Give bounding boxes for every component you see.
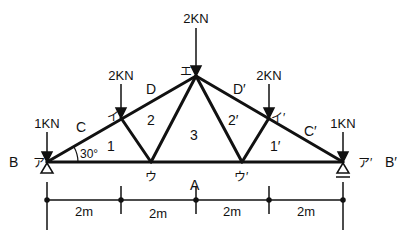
region-label-d-prime: D′ bbox=[233, 81, 246, 97]
load-label-upper-left: 2KN bbox=[108, 68, 133, 83]
node-label-upper-right: イ′ bbox=[271, 111, 286, 125]
node-label-apex: エ bbox=[180, 65, 192, 79]
region-label-c-prime: C′ bbox=[304, 123, 317, 139]
load-label-right-support: 1KN bbox=[330, 116, 355, 131]
load-label-upper-right: 2KN bbox=[256, 68, 281, 83]
dimension-label-2: 2m bbox=[149, 206, 167, 221]
node-label-lower-left: ウ bbox=[145, 170, 157, 184]
angle-label: 30° bbox=[80, 147, 98, 161]
node-label-upper-left: イ bbox=[107, 110, 119, 124]
region-label-b-prime: B′ bbox=[385, 154, 397, 170]
region-label-a: A bbox=[190, 177, 200, 193]
roller-support-icon bbox=[337, 163, 349, 173]
web-right-outer bbox=[242, 118, 269, 162]
region-label-2: 2 bbox=[147, 112, 155, 128]
truss-diagram: 1KN 2KN 2KN 2KN 1KN ア イ エ イ′ ウ ウ′ ア′ B B… bbox=[0, 0, 418, 244]
node-label-left-support: ア bbox=[33, 156, 45, 170]
load-label-apex: 2KN bbox=[183, 11, 208, 26]
supports bbox=[41, 163, 350, 177]
dimension-label-1: 2m bbox=[75, 204, 93, 219]
region-label-3: 3 bbox=[190, 127, 198, 143]
load-label-left-support: 1KN bbox=[34, 116, 59, 131]
region-label-2-prime: 2′ bbox=[228, 112, 239, 128]
dimension-label-3: 2m bbox=[223, 204, 241, 219]
region-label-c: C bbox=[76, 119, 86, 135]
region-label-b: B bbox=[9, 154, 18, 170]
region-label-1: 1 bbox=[107, 138, 115, 154]
node-label-right-support: ア′ bbox=[358, 156, 373, 170]
arrow-down-icon bbox=[191, 66, 201, 76]
angle-arc bbox=[74, 147, 78, 162]
node-label-lower-right: ウ′ bbox=[234, 170, 249, 184]
region-label-d: D bbox=[146, 81, 156, 97]
dimension-label-4: 2m bbox=[297, 204, 315, 219]
region-label-1-prime: 1′ bbox=[270, 138, 281, 154]
